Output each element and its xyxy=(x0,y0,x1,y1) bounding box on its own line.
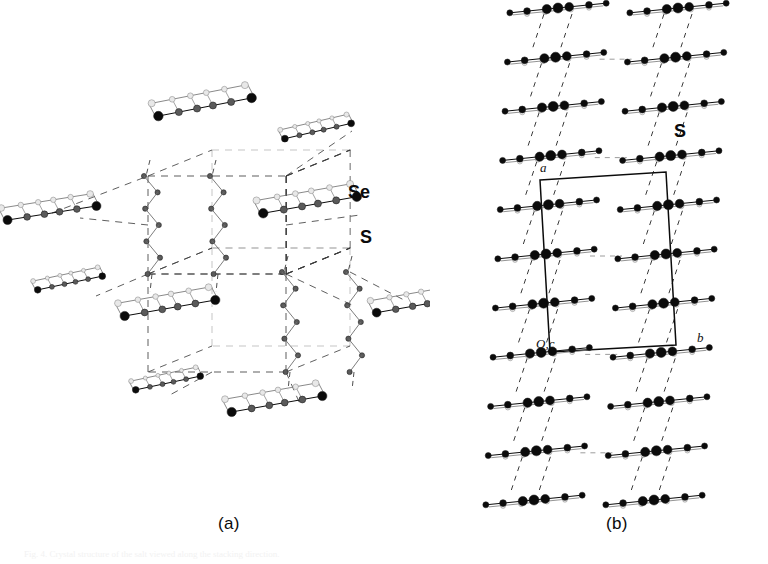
selenium-atom-back xyxy=(87,191,94,198)
heavy-atom xyxy=(702,443,708,449)
chain-bond xyxy=(282,272,296,289)
short-contact xyxy=(517,309,529,346)
heavy-atom xyxy=(706,2,713,9)
heavy-atom xyxy=(709,295,715,301)
selenium-atom xyxy=(318,391,327,400)
stacked-molecule xyxy=(612,295,714,311)
short-contact xyxy=(524,162,536,199)
heavy-atom xyxy=(718,99,724,105)
axis-label-b: b xyxy=(697,330,704,346)
figure-caption-text-cutoff: Fig. 4. Crystal structure of the salt vi… xyxy=(24,549,744,559)
molecule xyxy=(0,191,101,225)
sulfur-atom-back xyxy=(260,390,266,396)
heavy-atom xyxy=(612,305,618,311)
heavy-atom xyxy=(497,207,503,213)
chain-bond xyxy=(211,209,225,225)
selenium-atom xyxy=(34,287,41,294)
selenium-atom-back xyxy=(278,127,283,132)
heavy-atom xyxy=(657,103,666,112)
heavy-atom xyxy=(533,201,542,210)
heavy-atom xyxy=(680,101,689,110)
heavy-atom xyxy=(684,444,691,451)
chain-bond xyxy=(145,209,159,225)
stacked-molecule xyxy=(622,99,724,115)
heavy-atom xyxy=(523,398,532,407)
heavy-atom xyxy=(704,394,710,400)
sulfur-atom xyxy=(147,384,152,389)
stacked-molecule xyxy=(603,492,705,508)
heavy-atom xyxy=(507,10,513,16)
sulfur-atom-back xyxy=(387,295,392,300)
stacked-molecule xyxy=(495,246,597,262)
heavy-atom xyxy=(662,5,671,14)
heavy-atom xyxy=(622,450,629,457)
heavy-atom xyxy=(605,453,611,459)
sulfur-atom xyxy=(86,277,91,282)
heavy-atom xyxy=(509,303,516,310)
sulfur-atom xyxy=(248,405,255,412)
chain-dash xyxy=(150,274,152,292)
sulfur-atom xyxy=(159,306,166,313)
selenium-atom xyxy=(197,373,204,380)
heavy-atom xyxy=(701,100,708,107)
heavy-atom xyxy=(668,101,678,111)
chain-dash xyxy=(216,274,218,292)
rail-front xyxy=(5,206,99,221)
axis-label-a: a xyxy=(540,160,547,176)
heavy-atom xyxy=(553,3,563,13)
heavy-atom xyxy=(542,5,551,14)
heavy-atom xyxy=(673,248,682,257)
heavy-atom xyxy=(560,101,569,110)
selenium-atom xyxy=(247,93,257,103)
heavy-atom xyxy=(569,346,576,353)
heavy-atom xyxy=(537,103,546,112)
unit-cell-outline xyxy=(540,172,676,352)
heavy-atom xyxy=(643,398,652,407)
sulfur-atom-back xyxy=(203,90,209,96)
heavy-atom xyxy=(541,494,550,503)
sulfur-atom-back xyxy=(306,121,310,125)
heavy-atom xyxy=(504,59,510,65)
sulfur-atom xyxy=(24,214,31,221)
heavy-atom xyxy=(514,204,521,211)
heavy-atom xyxy=(562,52,571,61)
chain-atom xyxy=(347,369,352,374)
heavy-atom xyxy=(591,246,597,252)
chain-dash xyxy=(212,160,216,176)
short-contact xyxy=(543,358,555,395)
sulfur-atom xyxy=(310,130,315,135)
short-contact xyxy=(550,211,562,248)
heavy-atom xyxy=(636,155,643,162)
short-contact xyxy=(520,260,532,297)
selenium-atom-back xyxy=(115,300,122,307)
heavy-atom xyxy=(660,54,669,63)
sulfur-atom xyxy=(228,98,235,105)
molecule xyxy=(367,282,430,317)
sulfur-atom xyxy=(299,203,306,210)
heavy-atom xyxy=(579,492,585,498)
heavy-atom xyxy=(653,201,662,210)
heavy-atom xyxy=(648,300,657,309)
short-contact xyxy=(644,162,656,199)
sulfur-atom xyxy=(174,303,181,310)
heavy-atom xyxy=(721,49,727,55)
heavy-atom xyxy=(576,198,583,205)
sulfur-atom xyxy=(171,379,176,384)
heavy-atom xyxy=(627,10,633,16)
heavy-atom xyxy=(691,297,698,304)
sulfur-atom xyxy=(184,377,189,382)
stacked-molecule xyxy=(610,345,712,361)
chain-atom xyxy=(283,369,288,374)
molecules-group xyxy=(0,82,430,417)
heavy-atom xyxy=(504,401,511,408)
heavy-atom xyxy=(671,52,681,62)
sulfur-atom xyxy=(192,300,199,307)
selenium-atom-back xyxy=(241,82,248,89)
selenium-atom-back xyxy=(0,205,5,212)
sulfur-atom-back xyxy=(242,393,248,399)
anion-chain xyxy=(343,256,364,390)
heavy-atom xyxy=(608,403,614,409)
cell-edge xyxy=(287,248,351,274)
chain-dash xyxy=(146,160,150,176)
heavy-atom xyxy=(699,492,705,498)
